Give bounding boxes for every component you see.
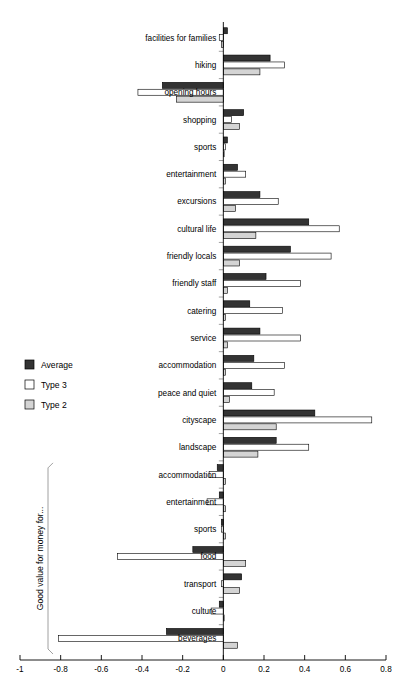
bar-type-3-8: [223, 253, 331, 259]
bar-average-9: [223, 273, 266, 279]
legend-label-type-2: Type 2: [41, 400, 67, 410]
bar-type-3-12: [223, 362, 284, 368]
bar-type-2-22: [223, 642, 237, 648]
x-axis-tick-label-8: 0.6: [340, 665, 352, 674]
category-label-9: friendly staff: [172, 279, 217, 288]
category-label-17: entertainment: [166, 498, 217, 507]
category-label-10: catering: [187, 307, 217, 316]
bar-type-2-15: [223, 451, 258, 457]
bar-average-3: [223, 110, 243, 116]
bar-type-3-5: [223, 171, 245, 177]
bar-average-6: [223, 192, 260, 198]
category-label-11: service: [190, 334, 216, 343]
bar-average-17: [219, 492, 223, 498]
bar-average-8: [223, 246, 290, 252]
x-axis-tick-label-4: -0.2: [176, 665, 191, 674]
bar-type-3-9: [223, 280, 300, 286]
bar-average-11: [223, 328, 260, 334]
bar-type-2-19: [223, 560, 245, 566]
x-axis-tick-label-6: 0.2: [258, 665, 270, 674]
bar-average-0: [223, 28, 227, 34]
category-label-6: excursions: [177, 197, 216, 206]
category-label-8: friendly locals: [167, 252, 217, 261]
bar-type-2-13: [223, 397, 229, 403]
legend-label-type-3: Type 3: [41, 380, 67, 390]
x-axis-tick-label-5: 0: [221, 665, 226, 674]
category-label-5: entertainment: [166, 170, 217, 179]
category-label-4: sports: [194, 143, 216, 152]
bar-type-3-7: [223, 226, 339, 232]
bar-average-13: [223, 383, 251, 389]
category-label-13: peace and quiet: [158, 389, 217, 398]
bar-average-7: [223, 219, 308, 225]
legend-swatch-type-2: [25, 400, 34, 409]
x-axis-tick-label-3: -0.4: [135, 665, 150, 674]
bar-average-12: [223, 355, 254, 361]
x-axis-tick-label-2: -0.6: [94, 665, 109, 674]
bar-type-2-1: [223, 69, 260, 75]
category-label-16: accommodation: [159, 471, 217, 480]
x-axis-tick-label-0: -1: [16, 665, 24, 674]
bar-type-3-3: [223, 117, 231, 123]
bar-type-3-15: [223, 444, 308, 450]
bar-average-10: [223, 301, 249, 307]
category-label-2: opening hours: [164, 88, 216, 97]
bar-type-2-3: [223, 123, 239, 129]
bar-average-21: [219, 601, 223, 607]
legend-swatch-average: [25, 360, 34, 369]
good-value-bracket: [48, 463, 53, 654]
category-label-7: cultural life: [177, 225, 217, 234]
bar-average-16: [217, 465, 223, 471]
bar-type-3-6: [223, 198, 278, 204]
bar-type-3-0: [219, 35, 223, 41]
bar-average-14: [223, 410, 314, 416]
category-label-18: sports: [194, 525, 216, 534]
bar-type-3-10: [223, 308, 282, 314]
bar-type-2-7: [223, 233, 256, 239]
bar-average-1: [223, 55, 270, 61]
bar-type-2-8: [223, 260, 239, 266]
category-label-20: transport: [184, 580, 217, 589]
legend-swatch-type-3: [25, 380, 34, 389]
x-axis-tick-label-1: -0.8: [54, 665, 69, 674]
category-label-0: facilities for families: [145, 34, 216, 43]
bar-average-4: [223, 137, 227, 143]
bar-type-2-14: [223, 424, 276, 430]
group-bracket-label: Good value for money for...: [35, 507, 45, 611]
category-label-15: landscape: [179, 443, 217, 452]
category-label-19: food: [200, 552, 216, 561]
bar-average-15: [223, 437, 276, 443]
bar-type-3-13: [223, 390, 274, 396]
x-axis-tick-label-7: 0.4: [299, 665, 311, 674]
legend-label-average: Average: [41, 360, 73, 370]
category-label-21: culture: [192, 607, 217, 616]
category-label-14: cityscape: [182, 416, 217, 425]
bar-type-3-11: [223, 335, 300, 341]
bar-type-2-6: [223, 205, 235, 211]
bar-average-20: [223, 574, 241, 580]
category-label-1: hiking: [195, 61, 217, 70]
bar-average-5: [223, 164, 237, 170]
bar-type-2-9: [223, 287, 227, 293]
bar-type-2-11: [223, 342, 227, 348]
bar-type-3-14: [223, 417, 371, 423]
bar-chart: facilities for familieshikingopening hou…: [0, 0, 406, 689]
category-label-22: beverages: [178, 634, 216, 643]
category-label-3: shopping: [183, 116, 217, 125]
category-label-12: accommodation: [159, 361, 217, 370]
bar-type-2-20: [223, 588, 239, 594]
x-axis-tick-label-9: 0.8: [380, 665, 392, 674]
bar-type-3-1: [223, 62, 284, 68]
chart-container: facilities for familieshikingopening hou…: [0, 0, 406, 689]
